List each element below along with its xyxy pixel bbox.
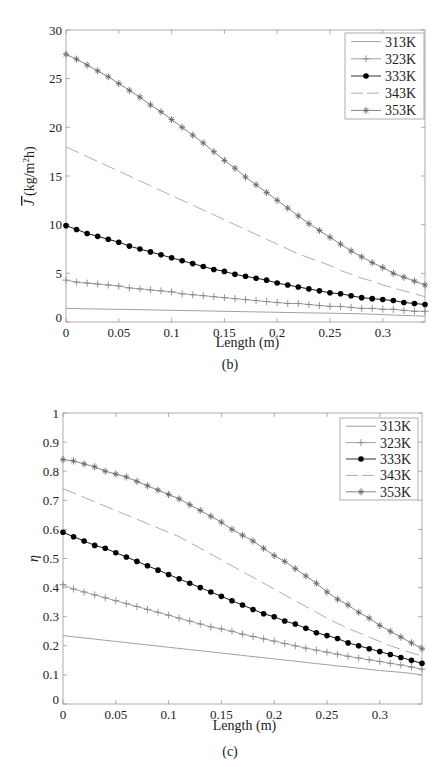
data-point-marker (60, 456, 66, 463)
x-tick-label: 0.1 (160, 707, 176, 722)
data-point-marker (221, 294, 228, 301)
chart-panel-c: 00.050.10.150.20.250.300.10.20.30.40.50.… (26, 406, 426, 761)
legend-label: 313K (385, 35, 416, 50)
series-line (63, 636, 422, 675)
data-point-marker (369, 259, 375, 266)
data-point-marker (398, 655, 404, 661)
data-point-marker (84, 280, 91, 287)
data-point-marker (260, 635, 267, 642)
y-tick-label: 0.9 (43, 435, 59, 450)
data-point-marker (263, 298, 270, 305)
legend-label: 333K (380, 452, 411, 467)
data-point-marker (232, 165, 238, 172)
data-point-marker (398, 634, 404, 641)
series-323K (60, 581, 426, 672)
data-point-marker (264, 189, 270, 196)
data-point-marker (229, 598, 235, 604)
data-point-marker (239, 631, 246, 638)
data-point-marker (377, 622, 383, 629)
data-point-marker (376, 658, 383, 665)
data-point-marker (253, 181, 259, 188)
panel-caption: (b) (222, 357, 239, 373)
data-point-marker (176, 576, 182, 582)
data-point-marker (137, 246, 143, 252)
data-point-marker (145, 563, 151, 569)
data-point-marker (335, 636, 341, 642)
data-point-marker (219, 594, 225, 600)
data-point-marker (306, 220, 312, 227)
data-point-marker (176, 615, 183, 622)
data-point-marker (326, 303, 333, 310)
data-point-marker (63, 277, 70, 284)
data-point-marker (327, 234, 333, 241)
data-point-marker (115, 282, 122, 289)
data-point-marker (274, 197, 280, 204)
data-point-marker (366, 656, 373, 663)
data-point-marker (81, 538, 87, 544)
y-tick-label: 0.3 (43, 609, 59, 624)
data-point-marker (334, 651, 341, 658)
data-point-marker (345, 602, 351, 609)
data-point-marker (200, 139, 206, 146)
data-point-marker (422, 308, 429, 315)
data-point-marker (197, 507, 203, 514)
data-point-marker (359, 253, 365, 260)
x-tick-label: 0 (63, 325, 70, 340)
data-point-marker (116, 80, 122, 87)
data-point-marker (271, 638, 278, 645)
legend-label: 343K (380, 468, 411, 483)
data-point-marker (359, 295, 365, 301)
data-point-marker (211, 267, 217, 273)
data-point-marker (271, 552, 277, 559)
data-point-marker (355, 655, 362, 662)
y-tick-label: 0 (56, 310, 63, 325)
data-point-marker (166, 572, 172, 578)
data-point-marker (419, 645, 425, 652)
y-tick-label: 0.8 (43, 464, 59, 479)
data-point-marker (158, 287, 165, 294)
data-point-marker (155, 609, 162, 616)
series-line (66, 226, 425, 305)
series-333K (63, 223, 428, 307)
data-point-marker (314, 630, 320, 636)
data-point-marker (136, 285, 143, 292)
series-line (66, 280, 425, 311)
data-point-marker (137, 94, 143, 101)
legend: 313K323K333K343K353K (345, 33, 424, 119)
data-point-marker (187, 580, 193, 586)
legend-label: 323K (380, 436, 411, 451)
x-tick-label: 0.05 (107, 325, 130, 340)
data-point-marker (369, 296, 375, 302)
data-point-marker (264, 277, 270, 283)
data-point-marker (105, 282, 112, 289)
data-point-marker (147, 101, 153, 108)
data-point-marker (95, 234, 101, 240)
data-point-marker (165, 612, 172, 619)
data-point-marker (190, 132, 196, 139)
data-point-marker (71, 534, 77, 540)
data-point-marker (408, 639, 414, 646)
data-point-marker (419, 666, 426, 673)
data-point-marker (292, 565, 298, 572)
legend-label: 343K (385, 86, 416, 101)
y-tick-label: 25 (49, 71, 62, 86)
x-axis-label: Length (m) (213, 718, 277, 734)
y-tick-label: 0.7 (43, 493, 60, 508)
x-tick-label: 0.3 (375, 325, 391, 340)
data-point-marker (133, 603, 140, 610)
data-point-marker (144, 606, 151, 613)
y-axis-label: J (kg/m2h) (21, 146, 38, 206)
data-point-marker (292, 642, 299, 649)
data-point-marker (366, 646, 372, 652)
data-point-marker (92, 543, 98, 549)
data-point-marker (348, 304, 355, 311)
y-tick-label: 0.4 (43, 580, 60, 595)
y-tick-label: 0 (53, 692, 60, 707)
data-point-marker (74, 227, 80, 233)
data-point-marker (422, 282, 428, 289)
data-point-marker (84, 62, 90, 69)
data-point-marker (313, 580, 319, 587)
x-tick-label: 0.25 (319, 325, 342, 340)
data-point-marker (127, 243, 133, 249)
data-point-marker (134, 559, 140, 565)
